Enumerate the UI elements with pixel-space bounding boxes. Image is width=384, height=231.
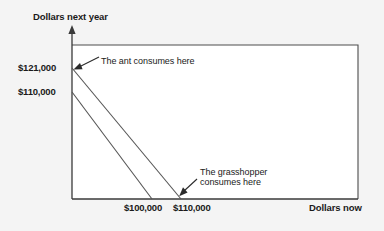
y-axis-arrowhead xyxy=(68,25,75,34)
chart-canvas xyxy=(0,0,384,231)
ant-annotation-label: The ant consumes here xyxy=(101,56,195,66)
y-axis-title: Dollars next year xyxy=(33,12,108,23)
x-tick-label-110000: $110,000 xyxy=(173,203,211,214)
x-tick-label-100000: $100,000 xyxy=(124,203,162,214)
chart-figure: Dollars next year Dollars now $121,000 $… xyxy=(0,0,384,231)
x-axis-title: Dollars now xyxy=(309,203,362,214)
grasshopper-annotation-line-1: The grasshopper xyxy=(200,167,267,177)
y-tick-label-121000: $121,000 xyxy=(18,63,56,74)
grasshopper-annotation-line-2: consumes here xyxy=(200,177,267,187)
y-tick-label-110000: $110,000 xyxy=(18,87,56,98)
grasshopper-annotation-label: The grasshopper consumes here xyxy=(200,167,267,187)
